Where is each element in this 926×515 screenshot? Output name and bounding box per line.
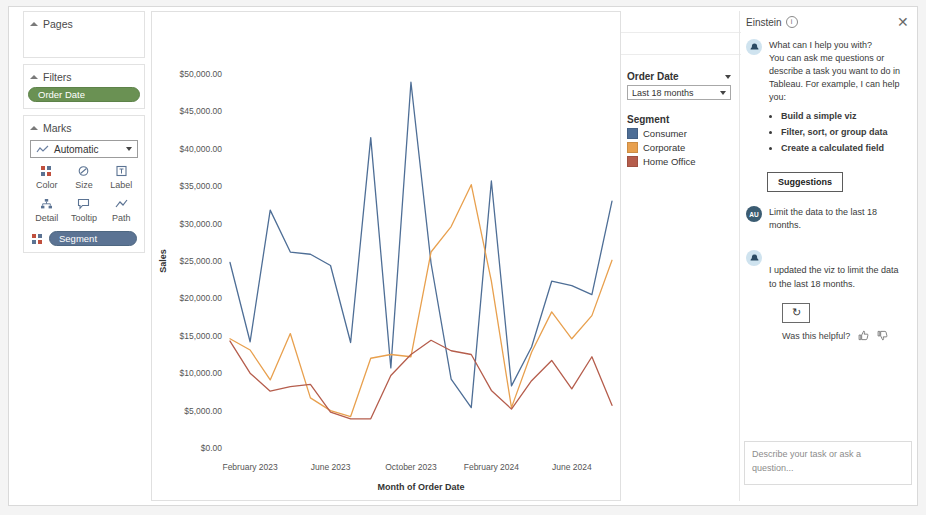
color-icon	[30, 232, 44, 245]
legend-label: Home Office	[643, 156, 696, 167]
pages-drop-zone[interactable]	[28, 34, 140, 51]
line-mark-icon	[36, 145, 49, 154]
einstein-glyph-icon	[749, 42, 760, 53]
thumbs-down-icon[interactable]	[877, 330, 888, 343]
legend-label: Consumer	[643, 128, 687, 139]
svg-text:$40,000.00: $40,000.00	[179, 144, 222, 154]
filters-label: Filters	[43, 71, 72, 83]
einstein-avatar	[746, 250, 762, 266]
svg-text:$0.00: $0.00	[201, 443, 223, 453]
svg-text:$30,000.00: $30,000.00	[179, 219, 222, 229]
legend-swatch	[627, 156, 638, 167]
marks-label: Marks	[43, 122, 72, 134]
filter-selected-value: Last 18 months	[632, 88, 694, 98]
svg-text:June 2023: June 2023	[311, 462, 351, 472]
marks-color-button[interactable]: Color	[28, 164, 65, 190]
marks-tooltip-label: Tooltip	[71, 213, 97, 223]
greeting-line-1: What can I help you with?	[769, 40, 872, 50]
marks-header[interactable]: Marks	[28, 120, 140, 138]
assistant-message: I updated the viz to limit the data to t…	[744, 244, 915, 292]
thumbs-up-glyph	[858, 330, 869, 341]
marks-path-button[interactable]: Path	[103, 197, 140, 223]
einstein-title: Einstein	[746, 17, 782, 28]
svg-text:$10,000.00: $10,000.00	[179, 368, 222, 378]
user-avatar: AU	[746, 206, 762, 222]
greeting-line-2: You can ask me questions or describe a t…	[769, 53, 900, 102]
detail-icon	[40, 197, 54, 210]
marks-card: Marks Automatic	[23, 115, 145, 253]
legend-swatch	[627, 128, 638, 139]
marks-size-label: Size	[75, 180, 93, 190]
chevron-down-icon[interactable]	[30, 20, 38, 28]
tableau-app-window: Pages Filters Order Date Marks Automatic	[8, 6, 918, 506]
svg-text:October 2023: October 2023	[385, 462, 437, 472]
marks-color-encoding-row: Segment	[28, 229, 140, 246]
einstein-capability-list: Build a simple viz Filter, sort, or grou…	[781, 110, 907, 155]
svg-text:June 2024: June 2024	[552, 462, 592, 472]
legend-item-corporate[interactable]: Corporate	[627, 142, 731, 153]
einstein-avatar	[746, 39, 762, 55]
chevron-down-icon[interactable]	[126, 147, 132, 151]
pages-card[interactable]: Pages	[23, 11, 145, 58]
filters-card[interactable]: Filters Order Date	[23, 64, 145, 109]
marks-tooltip-button[interactable]: Tooltip	[65, 197, 102, 223]
line-chart[interactable]: $50,000.00$45,000.00$40,000.00$35,000.00…	[152, 62, 620, 500]
mark-type-select[interactable]: Automatic	[30, 140, 138, 158]
marks-label-button[interactable]: Label	[103, 164, 140, 190]
capability-item: Build a simple viz	[781, 110, 907, 123]
feedback-label: Was this helpful?	[782, 331, 850, 341]
filter-pill-order-date[interactable]: Order Date	[28, 87, 140, 102]
filters-header[interactable]: Filters	[28, 69, 140, 87]
chevron-down-icon[interactable]	[725, 75, 731, 79]
chevron-down-icon[interactable]	[30, 124, 38, 132]
assistant-message-text: I updated the viz to limit the data to t…	[769, 250, 907, 290]
color-icon	[40, 164, 54, 177]
einstein-greeting-text: What can I help you with? You can ask me…	[769, 39, 907, 158]
filter-card-title: Order Date	[627, 71, 679, 82]
chevron-down-icon[interactable]	[720, 91, 726, 95]
filter-relative-date-select[interactable]: Last 18 months	[627, 85, 731, 100]
einstein-prompt-input[interactable]: Describe your task or ask a question...	[744, 441, 912, 485]
svg-text:$45,000.00: $45,000.00	[179, 106, 222, 116]
refresh-icon: ↻	[792, 306, 801, 319]
svg-text:$35,000.00: $35,000.00	[179, 181, 222, 191]
mark-type-value: Automatic	[54, 144, 98, 155]
einstein-greeting-message: What can I help you with? You can ask me…	[744, 33, 915, 160]
user-message: AU Limit the data to the last 18 months.	[744, 200, 915, 234]
legend-item-consumer[interactable]: Consumer	[627, 128, 731, 139]
marks-detail-button[interactable]: Detail	[28, 197, 65, 223]
svg-text:February 2023: February 2023	[222, 462, 278, 472]
thumbs-up-icon[interactable]	[858, 330, 869, 343]
filter-card-title-row[interactable]: Order Date	[627, 71, 731, 82]
svg-text:$20,000.00: $20,000.00	[179, 293, 222, 303]
marks-detail-label: Detail	[35, 213, 58, 223]
marks-size-button[interactable]: Size	[65, 164, 102, 190]
pages-label: Pages	[43, 18, 73, 30]
legend-title-row: Segment	[627, 114, 731, 125]
viz-container[interactable]: $50,000.00$45,000.00$40,000.00$35,000.00…	[151, 11, 621, 501]
svg-text:Sales: Sales	[158, 249, 168, 273]
pages-header[interactable]: Pages	[28, 16, 140, 34]
size-icon	[77, 164, 91, 177]
tooltip-icon	[77, 197, 91, 210]
einstein-title-group: Einstein i	[746, 16, 798, 28]
svg-text:February 2024: February 2024	[464, 462, 520, 472]
marks-pill-segment[interactable]: Segment	[49, 231, 137, 246]
suggestions-button[interactable]: Suggestions	[767, 172, 843, 192]
svg-text:$5,000.00: $5,000.00	[184, 406, 222, 416]
chevron-down-icon[interactable]	[30, 73, 38, 81]
marks-color-label: Color	[36, 180, 58, 190]
retry-button[interactable]: ↻	[782, 303, 810, 323]
left-sidebar: Pages Filters Order Date Marks Automatic	[23, 11, 145, 491]
info-icon[interactable]: i	[786, 16, 798, 28]
label-icon	[114, 164, 128, 177]
svg-text:$15,000.00: $15,000.00	[179, 331, 222, 341]
legend-swatch	[627, 142, 638, 153]
line-chart-svg[interactable]: $50,000.00$45,000.00$40,000.00$35,000.00…	[152, 62, 620, 500]
legend-item-home-office[interactable]: Home Office	[627, 156, 731, 167]
capability-item: Create a calculated field	[781, 142, 907, 155]
marks-button-grid: Color Size	[28, 164, 140, 223]
close-icon[interactable]: ✕	[897, 15, 909, 29]
path-icon	[114, 197, 128, 210]
feedback-row: Was this helpful?	[782, 330, 915, 343]
